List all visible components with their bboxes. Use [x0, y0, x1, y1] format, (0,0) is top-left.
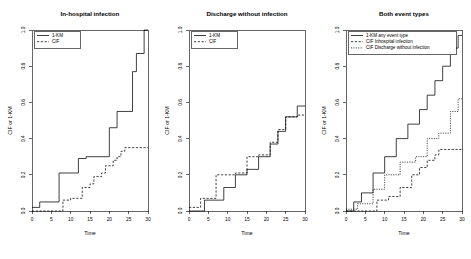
x-tick-label: 20 — [264, 217, 270, 222]
series-line — [32, 148, 148, 211]
y-tick-label: 1.0 — [21, 26, 26, 33]
y-tick-label: 0.8 — [178, 63, 183, 70]
x-tick-label: 20 — [421, 217, 427, 222]
x-tick-label: 30 — [459, 217, 465, 222]
y-tick-label: 0.0 — [335, 207, 340, 214]
plot-svg: Both event types0510152025300.00.20.40.6… — [314, 0, 471, 259]
y-tick-label: 1.0 — [178, 26, 183, 33]
x-tick-label: 15 — [244, 217, 250, 222]
x-tick-label: 30 — [145, 217, 151, 222]
x-tick-label: 15 — [401, 217, 407, 222]
x-axis-title: Time — [241, 230, 252, 236]
x-axis-title: Time — [84, 230, 95, 236]
y-tick-label: 0.8 — [335, 63, 340, 70]
y-tick-label: 0.4 — [335, 135, 340, 142]
x-tick-label: 25 — [283, 217, 289, 222]
panel-both-event-types: Both event types0510152025300.00.20.40.6… — [314, 0, 471, 259]
y-axis-title: CIF or 1-KM — [7, 106, 13, 134]
x-axis-title: Time — [398, 230, 409, 236]
x-tick-label: 25 — [440, 217, 446, 222]
series-line — [189, 115, 305, 207]
y-tick-label: 0.4 — [178, 135, 183, 142]
panel-title: Discharge without infection — [206, 10, 287, 17]
x-tick-label: 5 — [207, 217, 210, 222]
y-tick-label: 0.6 — [178, 99, 183, 106]
series-line — [346, 149, 462, 211]
y-tick-label: 0.6 — [21, 99, 26, 106]
x-tick-label: 0 — [345, 217, 348, 222]
panel-in-hospital-infection: In-hospital infection0510152025300.00.20… — [0, 0, 157, 259]
plot-svg: In-hospital infection0510152025300.00.20… — [0, 0, 157, 259]
y-tick-label: 0.4 — [21, 135, 26, 142]
legend-label: 1-KM — [52, 33, 63, 38]
x-tick-label: 5 — [364, 217, 367, 222]
x-tick-label: 15 — [87, 217, 93, 222]
plot-svg: Discharge without infection0510152025300… — [157, 0, 314, 259]
panel-discharge-without-infection: Discharge without infection0510152025300… — [157, 0, 314, 259]
y-tick-label: 0.0 — [178, 207, 183, 214]
y-tick-label: 0.2 — [335, 171, 340, 178]
panel-title: In-hospital infection — [61, 10, 120, 17]
y-tick-label: 0.2 — [21, 171, 26, 178]
x-tick-label: 25 — [126, 217, 132, 222]
figure-canvas: In-hospital infection0510152025300.00.20… — [0, 0, 471, 259]
legend-label: CIF — [52, 39, 60, 44]
y-tick-label: 0.2 — [178, 171, 183, 178]
legend-label: CIF Inhospital infection — [366, 39, 413, 44]
x-tick-label: 20 — [107, 217, 113, 222]
y-axis-title: CIF or 1-KM — [164, 106, 170, 134]
panel-title: Both event types — [379, 10, 429, 17]
plot-frame — [346, 30, 462, 211]
x-tick-label: 10 — [68, 217, 74, 222]
x-tick-label: 10 — [225, 217, 231, 222]
legend-label: CIF Discharge without infection — [366, 45, 430, 50]
y-tick-label: 0.6 — [335, 99, 340, 106]
y-tick-label: 0.8 — [21, 63, 26, 70]
x-tick-label: 0 — [188, 217, 191, 222]
series-line — [346, 35, 462, 211]
y-tick-label: 1.0 — [335, 26, 340, 33]
y-tick-label: 0.0 — [21, 207, 26, 214]
legend-label: CIF — [209, 39, 217, 44]
x-tick-label: 30 — [302, 217, 308, 222]
legend-label: 1-KM — [209, 33, 220, 38]
x-tick-label: 0 — [31, 217, 34, 222]
x-tick-label: 5 — [50, 217, 53, 222]
legend-label: 1-KM any event type — [366, 33, 409, 38]
y-axis-title: CIF or 1-KM — [321, 106, 327, 134]
plot-frame — [189, 30, 305, 211]
series-line — [32, 30, 148, 207]
x-tick-label: 10 — [382, 217, 388, 222]
